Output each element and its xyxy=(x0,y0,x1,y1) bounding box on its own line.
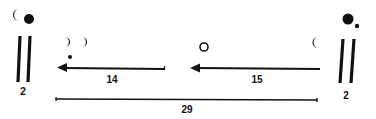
tally-bar-icon xyxy=(28,36,30,82)
tally-bar-icon xyxy=(351,39,354,83)
arrow-15 xyxy=(190,64,320,73)
arrowhead-left-icon xyxy=(190,64,200,73)
small-dot-icon xyxy=(68,55,72,59)
open-circle-icon xyxy=(200,43,208,51)
small-dot-icon xyxy=(355,24,359,28)
right-marker xyxy=(340,14,359,84)
left-marker xyxy=(13,9,34,82)
waxing-crescent-icon xyxy=(82,37,87,47)
left-count-label: 2 xyxy=(20,87,26,97)
segment-15-label: 15 xyxy=(251,75,262,85)
lunar-diagram xyxy=(0,0,376,119)
arrowhead-left-icon xyxy=(57,63,67,72)
waxing-crescent-icon xyxy=(65,37,70,47)
arrow-14 xyxy=(57,63,165,72)
full-moon-dot-icon xyxy=(343,14,354,25)
right-count-label: 2 xyxy=(343,91,349,101)
span-line-29 xyxy=(56,97,317,102)
tally-bar-icon xyxy=(340,39,343,83)
waning-crescent-icon xyxy=(313,37,319,48)
waning-crescent-icon xyxy=(13,9,19,21)
span-29-label: 29 xyxy=(181,105,192,115)
tally-bar-icon xyxy=(18,36,20,82)
segment-14-label: 14 xyxy=(106,75,117,85)
full-moon-dot-icon xyxy=(24,14,34,24)
